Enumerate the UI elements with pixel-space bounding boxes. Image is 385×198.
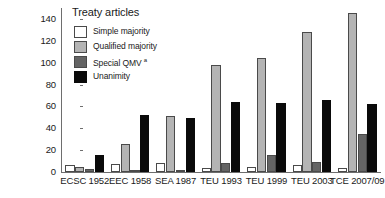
bar bbox=[130, 170, 139, 172]
legend-title: Treaty articles bbox=[72, 6, 139, 19]
bar bbox=[231, 102, 240, 172]
bar bbox=[65, 165, 74, 172]
bar bbox=[75, 167, 84, 172]
bar bbox=[95, 155, 104, 172]
legend-item: Special QMV a bbox=[74, 54, 157, 69]
legend-label: Qualified majority bbox=[93, 42, 157, 51]
bar bbox=[176, 170, 185, 172]
bar-group-bars bbox=[338, 8, 377, 172]
bar-group-bars bbox=[156, 8, 195, 172]
bar bbox=[322, 100, 331, 172]
legend-swatch bbox=[74, 56, 87, 68]
y-tick-label: 120 bbox=[26, 36, 56, 46]
bar bbox=[202, 168, 211, 172]
bar-chart: 020406080100120140 ECSC 1952EEC 1958SEA … bbox=[0, 0, 385, 198]
bar bbox=[140, 115, 149, 172]
y-tick-label: 80 bbox=[26, 80, 56, 90]
bar bbox=[121, 144, 130, 172]
bar bbox=[293, 165, 302, 172]
bar-group bbox=[289, 8, 334, 172]
legend-swatch bbox=[74, 26, 87, 38]
bar-group-bars bbox=[247, 8, 286, 172]
legend-swatch bbox=[74, 71, 87, 83]
x-axis-line bbox=[61, 172, 381, 173]
bar-group-bars bbox=[202, 8, 241, 172]
bar bbox=[338, 168, 347, 172]
legend-label: Simple majority bbox=[93, 27, 150, 36]
y-tick-label: 20 bbox=[26, 145, 56, 155]
y-axis-tick-labels: 020406080100120140 bbox=[22, 0, 56, 198]
bar bbox=[166, 116, 175, 172]
bar bbox=[247, 167, 256, 172]
bar bbox=[267, 155, 276, 172]
y-tick-label: 0 bbox=[26, 167, 56, 177]
bar bbox=[211, 65, 220, 172]
bar bbox=[257, 58, 266, 172]
x-category-label: TCE 2007/09 bbox=[329, 175, 385, 186]
y-tick-label: 100 bbox=[26, 58, 56, 68]
legend-label: Special QMV a bbox=[93, 56, 147, 68]
bar bbox=[85, 169, 94, 172]
bar bbox=[358, 134, 367, 172]
bar bbox=[156, 163, 165, 172]
bar bbox=[312, 162, 321, 172]
bar-group bbox=[244, 8, 289, 172]
legend-item: Simple majority bbox=[74, 24, 157, 39]
bar bbox=[111, 164, 120, 172]
bar bbox=[276, 103, 285, 172]
bar-group bbox=[198, 8, 243, 172]
y-tick-label: 40 bbox=[26, 123, 56, 133]
y-tick-mark bbox=[80, 172, 83, 173]
bar-group bbox=[335, 8, 380, 172]
bar bbox=[302, 32, 311, 172]
legend-label: Unanimity bbox=[93, 72, 130, 81]
bar bbox=[186, 118, 195, 172]
legend-footnote-marker: a bbox=[144, 57, 147, 63]
legend-item: Qualified majority bbox=[74, 39, 157, 54]
chart-legend: Simple majorityQualified majoritySpecial… bbox=[74, 24, 157, 84]
bar bbox=[221, 163, 230, 172]
bar-group bbox=[153, 8, 198, 172]
bar bbox=[348, 13, 357, 172]
y-tick-label: 60 bbox=[26, 101, 56, 111]
bar-group-bars bbox=[293, 8, 332, 172]
legend-item: Unanimity bbox=[74, 69, 157, 84]
y-tick-label: 140 bbox=[26, 14, 56, 24]
legend-swatch bbox=[74, 41, 87, 53]
bar bbox=[367, 104, 376, 172]
